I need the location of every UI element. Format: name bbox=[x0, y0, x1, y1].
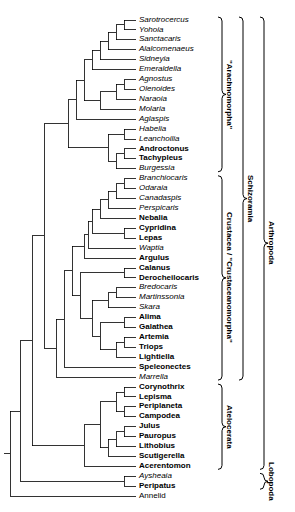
taxon-label: Tachypleus bbox=[139, 154, 182, 162]
taxon-label: Habelia bbox=[139, 125, 166, 133]
taxon-label: Lightiella bbox=[139, 353, 174, 361]
taxon-label: Argulus bbox=[139, 254, 169, 262]
taxon-label: Nebalia bbox=[139, 214, 167, 222]
taxon-label: Yohoia bbox=[139, 26, 163, 34]
taxon-label: Perspicaris bbox=[139, 204, 179, 212]
taxon-label: Burgessia bbox=[139, 164, 175, 172]
taxon-label: Lithobius bbox=[139, 442, 175, 450]
taxon-label: Branchiocaris bbox=[139, 174, 187, 182]
taxon-label: Peripatus bbox=[139, 482, 175, 490]
taxon-label: Naraoia bbox=[139, 95, 167, 103]
taxon-label: Sanctacaris bbox=[139, 35, 181, 43]
taxon-label: Lepas bbox=[139, 234, 162, 242]
taxon-label: Annelid bbox=[139, 492, 166, 500]
taxon-label: Aysheaia bbox=[139, 472, 172, 480]
taxon-label: Calanus bbox=[139, 264, 170, 272]
taxon-label: Artemia bbox=[139, 333, 169, 341]
taxon-label: Androctonus bbox=[139, 145, 189, 153]
clade-label: Crustacea / "Crustaceanomorpha" bbox=[225, 212, 234, 343]
taxon-label: Pauropus bbox=[139, 432, 176, 440]
taxon-label: Bredocaris bbox=[139, 283, 177, 291]
taxon-label: Agnostus bbox=[139, 75, 172, 83]
taxon-label: Acerentomon bbox=[139, 462, 191, 470]
taxon-label: Sarotrocercus bbox=[139, 16, 189, 24]
taxon-label: Sidneyia bbox=[139, 55, 170, 63]
taxon-label: Periplaneta bbox=[139, 402, 182, 410]
taxon-label: Scutigerella bbox=[139, 452, 184, 460]
taxon-label: Julus bbox=[139, 422, 160, 430]
taxon-label: Molaria bbox=[139, 105, 165, 113]
clade-label: Lobopoda bbox=[267, 462, 276, 501]
taxon-label: Lepisma bbox=[139, 393, 171, 401]
taxon-label: Emeraldella bbox=[139, 65, 181, 73]
taxon-label: Alima bbox=[139, 313, 161, 321]
clade-label: Atelocerata bbox=[225, 405, 234, 449]
taxon-label: Triops bbox=[139, 343, 163, 351]
cladogram-figure: SarotrocercusYohoiaSanctacarisAlalcomena… bbox=[0, 0, 295, 512]
taxon-label: Speleonectes bbox=[139, 363, 191, 371]
clade-label: "Arachnomorpha" bbox=[225, 60, 234, 129]
taxon-label: Campodea bbox=[139, 412, 180, 420]
taxon-label: Derocheilocaris bbox=[139, 274, 199, 282]
taxon-label: Marrella bbox=[139, 373, 168, 381]
taxon-label: Cypridina bbox=[139, 224, 176, 232]
taxon-label: Odaraia bbox=[139, 184, 167, 192]
taxon-label: Skara bbox=[139, 303, 160, 311]
taxon-label: Aglaspis bbox=[139, 115, 169, 123]
taxon-label: Galathea bbox=[139, 323, 173, 331]
taxon-label: Waptia bbox=[139, 244, 164, 252]
clade-label: Arthropoda bbox=[267, 221, 276, 265]
taxon-label: Olenoides bbox=[139, 85, 175, 93]
taxon-label: Martinssonia bbox=[139, 293, 184, 301]
taxon-label: Corynothrix bbox=[139, 383, 184, 391]
taxon-label: Alalcomenaeus bbox=[139, 45, 194, 53]
clade-label: Schizoramia bbox=[246, 175, 255, 222]
taxon-label: Leanchoilia bbox=[139, 135, 179, 143]
taxon-label: Canadaspis bbox=[139, 194, 181, 202]
